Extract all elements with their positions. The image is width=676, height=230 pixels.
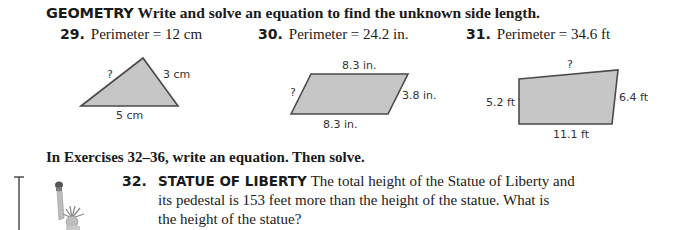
triangle-bottom-label: 5 cm: [116, 109, 143, 122]
triangle-figure: [81, 58, 178, 106]
exercise-keyword: STATUE OF LIBERTY: [158, 173, 307, 189]
exercise-text-2: its pedestal is 153 feet more than the h…: [122, 191, 575, 210]
exercise-text-3: the height of the statue?: [122, 210, 575, 229]
height-marker-icon: [12, 176, 26, 230]
exercise-text-1: The total height of the Statue of Libert…: [311, 173, 575, 189]
exercises-subheading: In Exercises 32–36, write an equation. T…: [46, 149, 365, 166]
parallelogram-right-label: 3.8 in.: [402, 89, 437, 102]
parallelogram-top-label: 8.3 in.: [342, 59, 377, 72]
parallelogram-bottom-label: 8.3 in.: [323, 118, 358, 131]
exercise-32: 32.STATUE OF LIBERTYThe total height of …: [122, 172, 575, 229]
statue-of-liberty-icon: [48, 180, 94, 230]
quadrilateral-right-label: 6.4 ft: [619, 91, 648, 104]
exercise-number: 32.: [122, 172, 158, 191]
quadrilateral-left-label: 5.2 ft: [486, 96, 515, 109]
parallelogram-figure: [291, 74, 408, 114]
exercise-32-line-1: 32.STATUE OF LIBERTYThe total height of …: [122, 172, 575, 191]
parallelogram-unknown-label: ?: [290, 86, 296, 99]
quadrilateral-unknown-label: ?: [567, 58, 573, 71]
triangle-unknown-label: ?: [107, 68, 113, 81]
quadrilateral-bottom-label: 11.1 ft: [553, 128, 589, 141]
triangle-right-label: 3 cm: [163, 68, 190, 81]
quadrilateral-figure: [519, 70, 618, 124]
